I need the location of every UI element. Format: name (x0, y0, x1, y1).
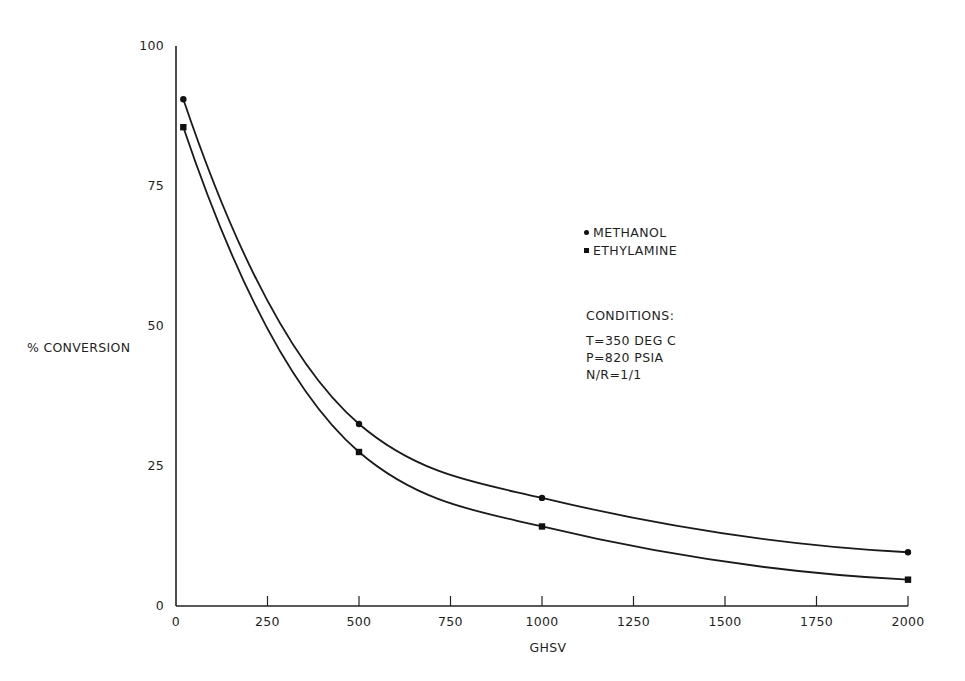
data-point-circle-icon (905, 549, 911, 555)
data-point-square-icon (539, 523, 545, 529)
condition-pressure: P=820 PSIA (586, 349, 676, 366)
x-axis-label: GHSV (530, 640, 567, 655)
data-point-circle-icon (356, 421, 362, 427)
data-point-square-icon (356, 449, 362, 455)
y-axis-label: % CONVERSION (27, 340, 130, 355)
y-tick-label: 75 (147, 178, 164, 193)
x-tick-label: 750 (438, 614, 463, 629)
x-tick-label: 1000 (525, 614, 558, 629)
data-point-square-icon (180, 124, 186, 130)
series-ethylamine (180, 124, 911, 583)
y-tick-label: 25 (147, 458, 164, 473)
circle-marker-icon (584, 230, 589, 235)
x-tick-label: 250 (255, 614, 280, 629)
data-point-circle-icon (180, 96, 186, 102)
y-tick-label: 50 (147, 318, 164, 333)
fit-curve (183, 127, 908, 579)
square-marker-icon (584, 248, 589, 253)
conditions-title: CONDITIONS: (586, 307, 676, 324)
x-tick-label: 2000 (891, 614, 924, 629)
conversion-chart: 0250500750100012501500175020000255075100… (0, 0, 965, 681)
legend-item-methanol: METHANOL (584, 223, 677, 241)
x-tick-label: 1750 (800, 614, 833, 629)
legend-item-ethylamine: ETHYLAMINE (584, 241, 677, 259)
data-point-circle-icon (539, 495, 545, 501)
x-tick-label: 1500 (708, 614, 741, 629)
legend-label-ethylamine: ETHYLAMINE (593, 242, 677, 259)
condition-temperature: T=350 DEG C (586, 332, 676, 349)
conditions-box: CONDITIONS: T=350 DEG C P=820 PSIA N/R=1… (586, 307, 676, 383)
x-tick-label: 0 (172, 614, 180, 629)
x-tick-label: 500 (347, 614, 372, 629)
legend: METHANOL ETHYLAMINE (584, 223, 677, 259)
y-tick-label: 100 (139, 38, 164, 53)
data-point-square-icon (905, 576, 911, 582)
x-tick-label: 1250 (617, 614, 650, 629)
series-methanol (180, 96, 911, 555)
condition-ratio: N/R=1/1 (586, 366, 676, 383)
fit-curve (183, 99, 908, 552)
legend-label-methanol: METHANOL (593, 224, 667, 241)
y-tick-label: 0 (156, 598, 164, 613)
